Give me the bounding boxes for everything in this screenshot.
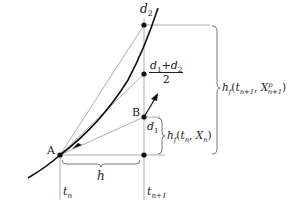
point-d2-dot bbox=[141, 22, 146, 27]
label-h: h bbox=[97, 170, 105, 182]
point-base-dot bbox=[141, 152, 146, 157]
label-tn1: tn+1 bbox=[147, 186, 167, 197]
label-mid-fraction: d1+d2 2 bbox=[149, 60, 183, 85]
slope-arrowhead-at-B bbox=[151, 93, 158, 101]
diagram-canvas: d2 d1+d2 2 B d1 A h tn tn+1 hf(tn, Xn) h… bbox=[0, 0, 297, 207]
label-hf-tn-xn: hf(tn, Xn) bbox=[167, 130, 212, 141]
point-B-dot bbox=[141, 114, 146, 119]
label-hf-tn1-xpn1: hf(tn+1, Xpn+1) bbox=[222, 82, 286, 93]
label-d1: d1 bbox=[147, 121, 159, 132]
label-d2: d2 bbox=[140, 3, 153, 15]
label-A: A bbox=[47, 145, 55, 156]
small-brace bbox=[158, 118, 165, 154]
label-B: B bbox=[132, 107, 140, 118]
label-tn: tn bbox=[63, 186, 72, 197]
h-brace bbox=[62, 160, 140, 167]
line-A-to-d2 bbox=[60, 25, 144, 155]
point-mid-dot bbox=[141, 71, 146, 76]
point-A-dot bbox=[57, 152, 62, 157]
big-brace bbox=[212, 26, 220, 154]
diagram-graphics bbox=[0, 0, 297, 207]
